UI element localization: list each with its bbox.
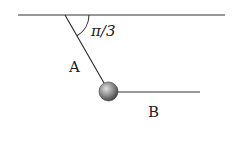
angle-arc — [77, 15, 89, 36]
ball-mass — [99, 82, 118, 101]
angle-label: π/3 — [90, 22, 115, 40]
string-a-label: A — [68, 58, 80, 76]
string-b-label: B — [148, 103, 159, 121]
pendulum-diagram: π/3 A B — [0, 0, 234, 144]
